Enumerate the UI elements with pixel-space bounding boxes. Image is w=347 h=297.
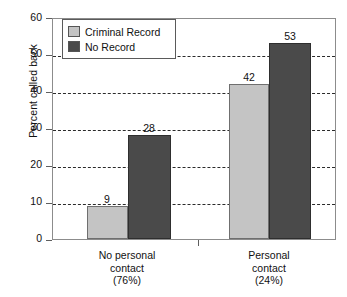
legend-item-no-record[interactable]: No Record <box>68 39 170 54</box>
bar-no-record-personal-contact[interactable] <box>269 43 311 239</box>
x-tick-mark-divider <box>198 240 199 246</box>
y-tick-label-0: 0 <box>8 232 42 244</box>
y-tick-mark-0 <box>46 240 52 241</box>
legend: Criminal Record No Record <box>62 19 176 59</box>
bar-no-record-no-personal-contact[interactable] <box>128 135 171 239</box>
bar-chart-figure: Percent called back 0 10 20 30 40 50 60 <box>0 0 347 297</box>
legend-item-criminal-record[interactable]: Criminal Record <box>68 24 170 39</box>
legend-label-criminal-record: Criminal Record <box>85 26 160 38</box>
y-tick-label-40: 40 <box>8 84 42 96</box>
x-category-label-no-personal-contact: No personal contact (76%) <box>62 249 192 287</box>
bar-value-label-53: 53 <box>267 30 313 42</box>
y-tick-label-30: 30 <box>8 121 42 133</box>
x-category-line-1: No personal <box>62 249 192 262</box>
x-category-line-3: (24%) <box>204 274 334 287</box>
legend-swatch-icon-no-record <box>68 41 80 52</box>
bar-value-label-28: 28 <box>126 122 172 134</box>
x-category-line-2: contact <box>204 262 334 275</box>
x-category-line-3: (76%) <box>62 274 192 287</box>
bar-value-label-9: 9 <box>84 193 130 205</box>
bar-value-label-42: 42 <box>226 71 272 83</box>
x-category-label-personal-contact: Personal contact (24%) <box>204 249 334 287</box>
x-category-line-2: contact <box>62 262 192 275</box>
bar-criminal-record-personal-contact[interactable] <box>229 84 269 239</box>
y-tick-label-10: 10 <box>8 195 42 207</box>
bar-criminal-record-no-personal-contact[interactable] <box>87 206 128 239</box>
y-tick-label-60: 60 <box>8 11 42 23</box>
y-tick-label-20: 20 <box>8 158 42 170</box>
legend-label-no-record: No Record <box>85 41 135 53</box>
x-category-line-1: Personal <box>204 249 334 262</box>
y-tick-label-50: 50 <box>8 47 42 59</box>
legend-swatch-icon-criminal-record <box>68 26 80 37</box>
